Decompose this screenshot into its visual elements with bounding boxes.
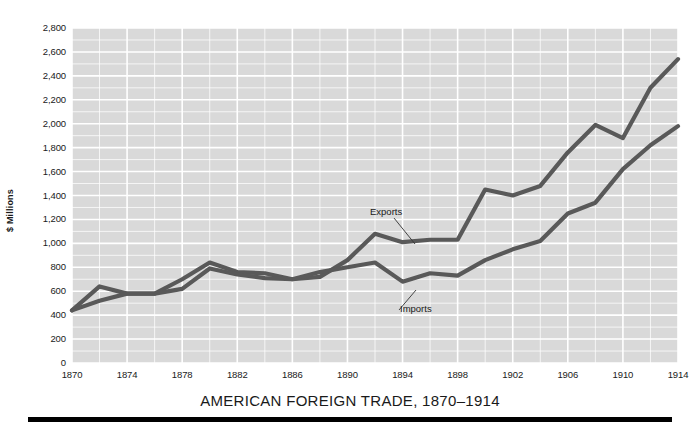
y-axis-tick-label: 1,600 xyxy=(18,167,66,177)
y-axis-tick-label: 0 xyxy=(18,358,66,368)
x-axis-tick-label: 1902 xyxy=(493,370,533,380)
series-annotation-exports: Exports xyxy=(370,206,402,217)
y-axis-tick-label: 200 xyxy=(18,334,66,344)
x-axis-tick-label: 1890 xyxy=(327,370,367,380)
y-axis-tick-label: 1,400 xyxy=(18,191,66,201)
x-axis-tick-label: 1898 xyxy=(438,370,478,380)
title-rule xyxy=(28,417,672,422)
y-axis-tick-label: 600 xyxy=(18,286,66,296)
chart-title: AMERICAN FOREIGN TRADE, 1870–1914 xyxy=(0,392,700,409)
x-axis-tick-label: 1894 xyxy=(383,370,423,380)
x-axis-tick-label: 1878 xyxy=(162,370,202,380)
line-chart-plot xyxy=(0,0,700,429)
chart-figure: $ Millions AMERICAN FOREIGN TRADE, 1870–… xyxy=(0,0,700,429)
y-axis-tick-label: 400 xyxy=(18,310,66,320)
x-axis-tick-label: 1914 xyxy=(658,370,698,380)
y-axis-tick-label: 1,200 xyxy=(18,214,66,224)
x-axis-tick-label: 1906 xyxy=(548,370,588,380)
series-annotation-imports: Imports xyxy=(400,303,432,314)
y-axis-tick-label: 2,600 xyxy=(18,47,66,57)
y-axis-tick-label: 2,200 xyxy=(18,95,66,105)
x-axis-tick-label: 1870 xyxy=(52,370,92,380)
y-axis-tick-label: 1,000 xyxy=(18,238,66,248)
y-axis-tick-label: 2,400 xyxy=(18,71,66,81)
x-axis-tick-label: 1874 xyxy=(107,370,147,380)
y-axis-tick-label: 2,000 xyxy=(18,119,66,129)
y-axis-tick-label: 1,800 xyxy=(18,143,66,153)
x-axis-tick-label: 1886 xyxy=(272,370,312,380)
y-axis-tick-label: 800 xyxy=(18,262,66,272)
y-axis-tick-label: 2,800 xyxy=(18,23,66,33)
x-axis-tick-label: 1910 xyxy=(603,370,643,380)
x-axis-tick-label: 1882 xyxy=(217,370,257,380)
